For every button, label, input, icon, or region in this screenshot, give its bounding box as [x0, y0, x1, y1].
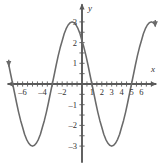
y-tick-label: –3 [68, 141, 78, 151]
x-tick-label: –2 [57, 87, 67, 97]
y-tick-label: 3 [73, 17, 77, 27]
y-axis-label: y [87, 3, 92, 13]
coordinate-plane: –6–4–2123456321–1–2–3 x y [0, 0, 165, 164]
y-tick-label: –1 [68, 100, 78, 110]
x-tick-label: 4 [119, 87, 124, 97]
y-tick-label: –2 [68, 120, 78, 130]
graph-figure: –6–4–2123456321–1–2–3 x y [0, 0, 165, 164]
y-tick-label: 1 [73, 58, 77, 68]
x-tick-label: 6 [139, 87, 143, 97]
y-tick-label: 2 [73, 38, 77, 48]
x-tick-label: 3 [110, 87, 114, 97]
x-tick-label: 2 [100, 87, 104, 97]
x-tick-label: –4 [37, 87, 47, 97]
x-tick-label: –6 [17, 87, 27, 97]
x-tick-label: 1 [90, 87, 94, 97]
x-axis-label: x [150, 64, 155, 74]
x-tick-label: 5 [129, 87, 133, 97]
